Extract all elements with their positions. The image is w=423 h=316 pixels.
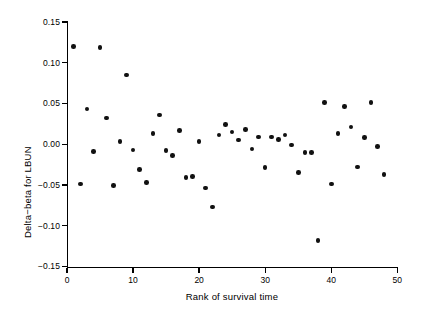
- data-point: [342, 104, 347, 109]
- data-point: [111, 183, 116, 188]
- data-point: [118, 139, 123, 144]
- data-point: [309, 150, 314, 155]
- x-tick-label: 30: [250, 275, 280, 285]
- x-axis-title: Rank of survival time: [167, 291, 297, 302]
- data-point: [276, 137, 281, 142]
- y-tick-label: 0.05: [20, 98, 60, 108]
- data-point: [71, 44, 76, 49]
- x-tick-label: 50: [382, 275, 412, 285]
- x-tick-mark: [132, 268, 133, 273]
- y-tick-label: 0.10: [20, 58, 60, 68]
- y-tick-mark: [62, 266, 67, 267]
- data-point: [382, 172, 387, 177]
- y-tick-mark: [62, 144, 67, 145]
- x-tick-label: 40: [316, 275, 346, 285]
- y-tick-mark: [62, 62, 67, 63]
- data-point: [91, 149, 96, 154]
- data-point: [289, 143, 294, 148]
- data-point: [322, 100, 327, 105]
- data-point: [190, 174, 195, 179]
- data-point: [151, 131, 156, 136]
- data-point: [243, 127, 248, 132]
- data-point: [329, 182, 334, 187]
- data-point: [144, 180, 149, 185]
- data-point: [78, 182, 83, 187]
- y-tick-mark: [62, 21, 67, 22]
- x-tick-label: 10: [118, 275, 148, 285]
- data-point: [124, 73, 129, 78]
- x-tick-mark: [66, 268, 67, 273]
- data-point: [256, 135, 261, 140]
- data-point: [157, 113, 162, 118]
- y-tick-label: −0.15: [20, 261, 60, 271]
- data-point: [369, 100, 374, 105]
- plot-area: [0, 0, 423, 316]
- data-point: [296, 170, 301, 175]
- data-point: [269, 135, 274, 140]
- data-point: [355, 165, 360, 170]
- data-point: [362, 135, 367, 140]
- x-tick-mark: [331, 268, 332, 273]
- data-point: [177, 128, 182, 133]
- data-point: [303, 150, 308, 155]
- y-tick-mark: [62, 184, 67, 185]
- data-point: [223, 122, 228, 127]
- scatter-plot-figure: 0.150.100.050.00−0.05−0.10−0.15 01020304…: [0, 0, 423, 316]
- data-point: [210, 205, 215, 210]
- data-point: [375, 144, 380, 149]
- y-tick-mark: [62, 225, 67, 226]
- x-tick-mark: [397, 268, 398, 273]
- x-tick-mark: [198, 268, 199, 273]
- data-point: [170, 153, 175, 158]
- x-tick-label: 0: [52, 275, 82, 285]
- data-point: [184, 175, 189, 180]
- x-tick-label: 20: [184, 275, 214, 285]
- x-axis-line: [67, 267, 398, 268]
- data-point: [336, 131, 341, 136]
- data-point: [316, 238, 321, 243]
- y-axis-title: Delta−beta for LBUN: [22, 146, 33, 238]
- y-tick-mark: [62, 103, 67, 104]
- y-axis-line: [67, 21, 68, 268]
- y-tick-label: 0.15: [20, 17, 60, 27]
- data-point: [137, 167, 142, 172]
- x-tick-mark: [265, 268, 266, 273]
- data-point: [98, 45, 103, 50]
